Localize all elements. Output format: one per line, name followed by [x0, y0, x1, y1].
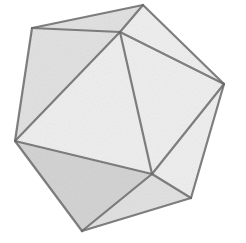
icosahedron-figure [0, 0, 246, 243]
icosahedron-drawing [0, 0, 246, 243]
polyhedron-faces [15, 5, 224, 231]
